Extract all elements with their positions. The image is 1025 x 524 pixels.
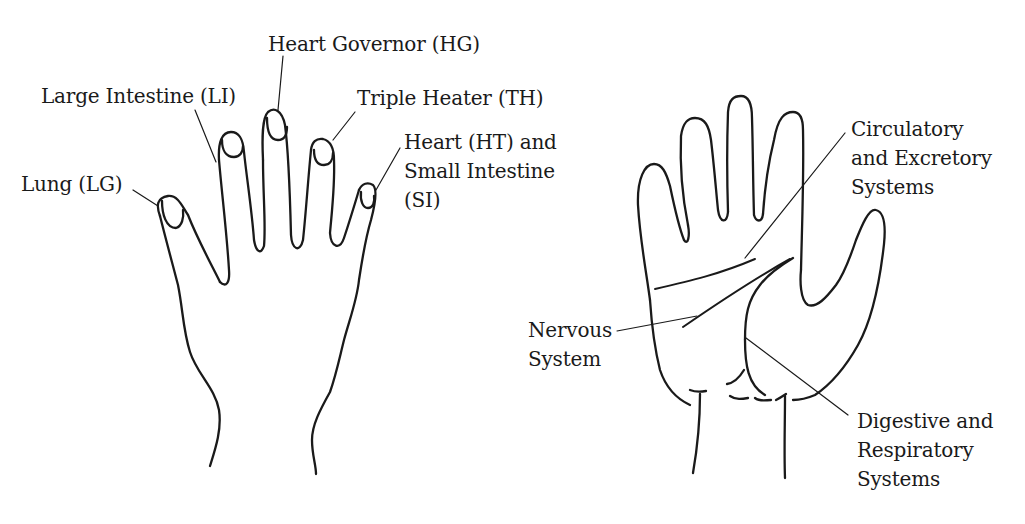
label-digestive-respiratory: Digestive and Respiratory Systems [857, 407, 993, 494]
label-nervous-system: Nervous System [528, 316, 612, 374]
label-line: Small Intestine [404, 157, 557, 186]
label-line: and Excretory [851, 144, 992, 173]
label-line: System [528, 345, 612, 374]
hand-meridian-diagram: Heart Governor (HG) Large Intestine (LI)… [0, 0, 1025, 524]
right-hand-leader-lines [617, 133, 848, 415]
label-line: Nervous [528, 316, 612, 345]
label-line: Circulatory [851, 115, 992, 144]
label-triple-heater: Triple Heater (TH) [357, 84, 543, 113]
label-line: Heart (HT) and [404, 128, 557, 157]
right-hand-palm-lines [655, 259, 790, 327]
label-large-intestine: Large Intestine (LI) [41, 82, 236, 111]
left-hand-leader-lines [133, 56, 400, 206]
label-heart-small-intestine: Heart (HT) and Small Intestine (SI) [404, 128, 557, 215]
label-lung: Lung (LG) [21, 170, 122, 199]
label-line: Systems [851, 173, 992, 202]
left-hand-outline [158, 110, 376, 474]
label-line: (SI) [404, 186, 557, 215]
label-line: Digestive and [857, 407, 993, 436]
label-line: Systems [857, 465, 993, 494]
label-heart-governor: Heart Governor (HG) [268, 30, 480, 59]
label-line: Respiratory [857, 436, 993, 465]
label-circulatory-excretory: Circulatory and Excretory Systems [851, 115, 992, 202]
right-hand-outline [638, 96, 885, 478]
